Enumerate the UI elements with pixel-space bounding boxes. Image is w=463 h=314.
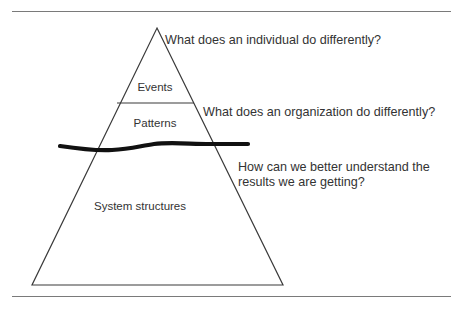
annotation-results: How can we better understand the results… — [238, 160, 428, 191]
annotation-individual: What does an individual do differently? — [165, 33, 445, 48]
waterline — [60, 143, 248, 150]
tier-label-system-structures: System structures — [60, 199, 220, 213]
tier-label-patterns: Patterns — [110, 116, 200, 130]
tier-label-events: Events — [117, 80, 193, 94]
annotation-organization: What does an organization do differently… — [203, 105, 453, 120]
pyramid-outline — [32, 28, 283, 285]
pyramid-diagram-figure: Events Patterns System structures What d… — [0, 0, 463, 314]
